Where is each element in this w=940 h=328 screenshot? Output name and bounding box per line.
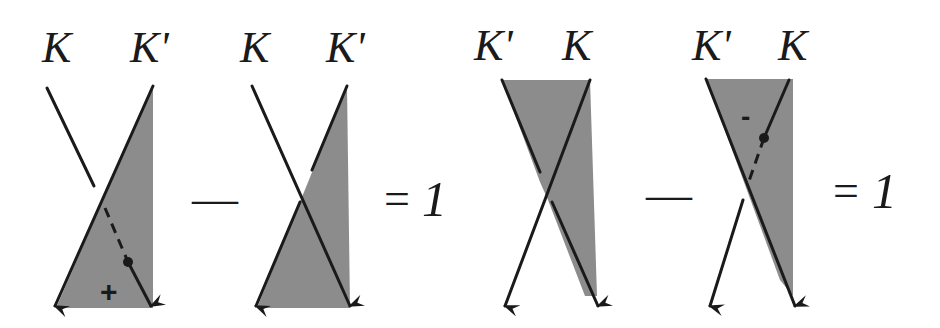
result-value: 1 — [872, 163, 897, 219]
sign-minus: - — [741, 101, 750, 132]
strand-k — [47, 88, 94, 186]
term-1-1: K K' + — [41, 23, 170, 308]
equals-sign: = — [833, 165, 859, 216]
result-value: 1 — [422, 171, 447, 227]
label-k-prime: K' — [325, 23, 366, 72]
term-1-2: K K' — [239, 23, 366, 308]
label-k: K — [561, 21, 594, 70]
strand-k-lower — [710, 200, 743, 306]
label-k: K — [239, 23, 272, 72]
equals-result-1: = 1 — [384, 171, 447, 227]
label-k: K — [777, 21, 810, 70]
term-2-1: K' K — [473, 21, 598, 306]
term-2-2: K' K - — [691, 21, 810, 306]
equals-result-2: = 1 — [833, 163, 897, 219]
minus-operator: — — [191, 173, 239, 224]
skein-relations-diagram: K K' + — K K' = 1 K' K — [0, 0, 940, 328]
label-k-prime: K' — [473, 21, 514, 70]
label-k-prime: K' — [691, 21, 732, 70]
label-k: K — [41, 23, 74, 72]
minus-operator: — — [645, 169, 693, 220]
label-k-prime: K' — [129, 23, 170, 72]
equals-sign: = — [384, 173, 410, 224]
sign-plus: + — [100, 275, 118, 308]
